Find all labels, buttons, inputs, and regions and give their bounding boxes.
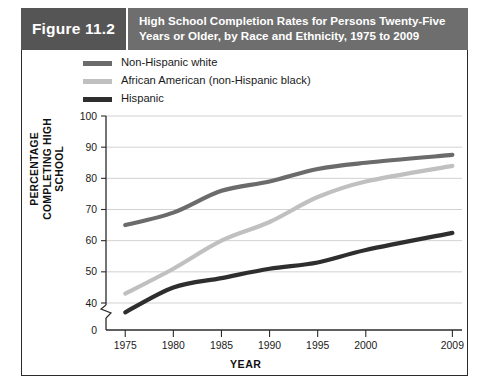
legend-item-label: Non-Hispanic white (121, 57, 217, 68)
legend-item-african-american: African American (non-Hispanic black) (83, 73, 413, 89)
legend-swatch-icon (83, 79, 112, 84)
legend-item-label: African American (non-Hispanic black) (121, 75, 311, 86)
legend-item-hispanic: Hispanic (83, 91, 413, 107)
legend-item-label: Hispanic (121, 93, 164, 104)
figure-header: Figure 11.2 High School Completion Rates… (21, 8, 468, 50)
y-axis-title-line2: COMPLETING HIGH SCHOOL (42, 109, 67, 229)
y-axis-title: PERCENTAGE COMPLETING HIGH SCHOOL (29, 109, 67, 229)
figure-number-badge: Figure 11.2 (21, 8, 128, 50)
y-axis-title-line1: PERCENTAGE (29, 109, 42, 229)
legend-swatch-icon (83, 97, 112, 102)
legend-item-non-hispanic-white: Non-Hispanic white (83, 55, 413, 71)
figure-container: Figure 11.2 High School Completion Rates… (0, 0, 490, 386)
figure-title: High School Completion Rates for Persons… (128, 8, 468, 50)
x-axis-title: YEAR (230, 358, 261, 370)
chart-legend: Non-Hispanic white African American (non… (83, 55, 413, 109)
legend-swatch-icon (83, 61, 112, 66)
